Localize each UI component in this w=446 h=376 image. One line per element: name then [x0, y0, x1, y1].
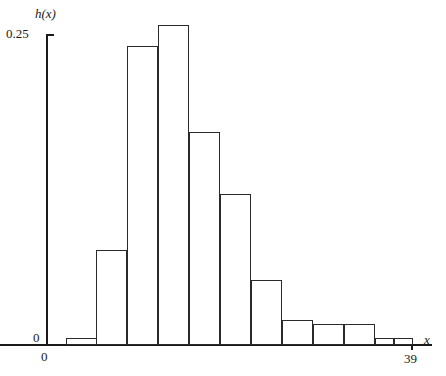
histogram-bar-7 — [251, 280, 282, 345]
histogram-bar-6 — [220, 194, 251, 345]
histogram-bar-1 — [66, 338, 97, 345]
histogram-bar-12 — [394, 338, 413, 345]
histogram-bar-3 — [127, 46, 158, 345]
histogram-bars-layer — [0, 0, 446, 376]
histogram-bar-11 — [375, 338, 394, 345]
histogram-bar-8 — [282, 320, 313, 345]
histogram-bar-9 — [313, 324, 344, 345]
histogram-bar-4 — [158, 25, 189, 345]
histogram-bar-10 — [344, 324, 375, 345]
histogram-chart: 0.25 0 0 39 h(x) x — [0, 0, 446, 376]
histogram-bar-2 — [96, 250, 127, 345]
histogram-bar-5 — [189, 132, 220, 345]
